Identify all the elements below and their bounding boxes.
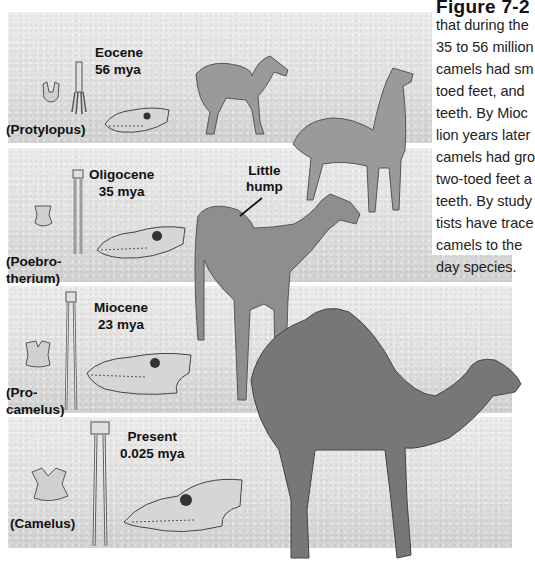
genus-line: (Pro- (6, 384, 65, 401)
caption-line: 35 to 56 million (436, 39, 534, 55)
camel-animal-icon (245, 300, 530, 565)
era-name: Oligocene (89, 166, 154, 183)
foot-bone-icon (88, 420, 112, 552)
era-age: 35 mya (89, 183, 154, 200)
era-name: Miocene (94, 299, 148, 316)
genus-line: camelus) (6, 401, 65, 418)
era-age: 23 mya (94, 316, 148, 333)
caption-line: that during the (436, 17, 529, 33)
skull-icon (85, 347, 195, 397)
molar-tooth-icon (40, 80, 62, 106)
foot-bone-icon (70, 168, 86, 258)
caption-line: teeth. By Mioc (436, 105, 528, 121)
foot-bone-icon (70, 60, 88, 116)
genus-procamelus: (Pro- camelus) (6, 384, 65, 418)
caption-line: teeth. By study (436, 193, 532, 209)
oligocene-label: Oligocene 35 mya (89, 166, 154, 200)
caption-line: tists have trace (436, 215, 534, 231)
callout-line: hump (246, 179, 283, 195)
caption-line: camels to the (436, 237, 522, 253)
genus-poebrotherium: (Poebro- therium) (6, 253, 62, 287)
genus-line: therium) (6, 270, 62, 287)
figure-title: Figure 7-2 (436, 0, 530, 18)
genus-line: (Poebro- (6, 253, 62, 270)
skull-icon (122, 470, 250, 536)
genus-camelus: (Camelus) (10, 515, 75, 532)
caption-line: toed feet, and (436, 83, 525, 99)
caption-line: lion years later (436, 127, 530, 143)
caption-line: day species. (436, 259, 517, 275)
molar-tooth-icon (28, 466, 70, 504)
era-age: 0.025 mya (120, 445, 185, 462)
caption-line: camels had gro (436, 149, 535, 165)
era-age: 56 mya (95, 61, 143, 78)
callout-pointer-line (236, 196, 266, 220)
caption-line: two-toed feet a (436, 171, 532, 187)
callout-little-hump: Little hump (246, 163, 283, 195)
poebrotherium-animal-icon (283, 60, 433, 220)
foot-bone-icon (62, 290, 80, 414)
callout-line: Little (246, 163, 283, 179)
molar-tooth-icon (24, 339, 52, 369)
present-label: Present 0.025 mya (120, 428, 185, 462)
skull-icon (103, 100, 173, 136)
skull-icon (95, 218, 190, 262)
molar-tooth-icon (32, 203, 54, 229)
era-name: Eocene (95, 44, 143, 61)
era-name: Present (120, 428, 185, 445)
genus-protylopus: (Protylopus) (6, 121, 86, 138)
eocene-label: Eocene 56 mya (95, 44, 143, 78)
miocene-label: Miocene 23 mya (94, 299, 148, 333)
caption-line: camels had sm (436, 61, 534, 77)
